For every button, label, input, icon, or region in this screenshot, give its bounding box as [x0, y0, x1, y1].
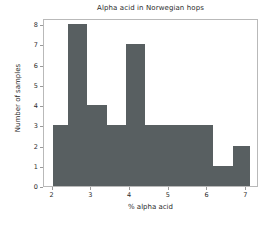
x-tick-label: 6 [204, 191, 208, 199]
x-tick-label: 5 [166, 191, 170, 199]
y-tick-mark [40, 25, 43, 26]
histogram-bar [126, 44, 145, 186]
y-tick-label: 3 [29, 122, 38, 130]
x-tick-label: 3 [88, 191, 92, 199]
x-axis-label: % alpha acid [43, 203, 258, 211]
histogram-bar [233, 146, 250, 186]
y-tick-mark [40, 106, 43, 107]
histogram-bar [87, 105, 106, 186]
y-tick-label: 1 [29, 163, 38, 171]
x-tick-mark [52, 187, 53, 190]
y-tick-mark [40, 45, 43, 46]
plot-area [43, 19, 258, 187]
histogram-bar [107, 125, 126, 186]
x-tick-label: 7 [243, 191, 247, 199]
x-tick-mark [206, 187, 207, 190]
y-tick-mark [40, 167, 43, 168]
x-tick-mark [245, 187, 246, 190]
y-tick-mark [40, 187, 43, 188]
histogram-bar [53, 125, 68, 186]
y-tick-label: 2 [29, 143, 38, 151]
y-axis-label: Number of samples [14, 43, 22, 153]
x-tick-mark [90, 187, 91, 190]
histogram-figure: Alpha acid in Norwegian hops 234567 0123… [0, 0, 273, 225]
y-tick-label: 0 [29, 183, 38, 191]
histogram-bar [145, 125, 213, 186]
y-tick-mark [40, 86, 43, 87]
y-tick-mark [40, 66, 43, 67]
y-tick-mark [40, 147, 43, 148]
x-tick-label: 2 [49, 191, 53, 199]
y-tick-label: 6 [29, 62, 38, 70]
histogram-bar [68, 24, 87, 186]
x-tick-mark [129, 187, 130, 190]
x-tick-mark [168, 187, 169, 190]
histogram-bar [213, 166, 232, 186]
page-title: Alpha acid in Norwegian hops [43, 4, 258, 12]
x-tick-label: 4 [127, 191, 131, 199]
y-tick-mark [40, 126, 43, 127]
y-tick-label: 4 [29, 102, 38, 110]
y-tick-label: 8 [29, 21, 38, 29]
y-tick-label: 7 [29, 41, 38, 49]
y-tick-label: 5 [29, 82, 38, 90]
